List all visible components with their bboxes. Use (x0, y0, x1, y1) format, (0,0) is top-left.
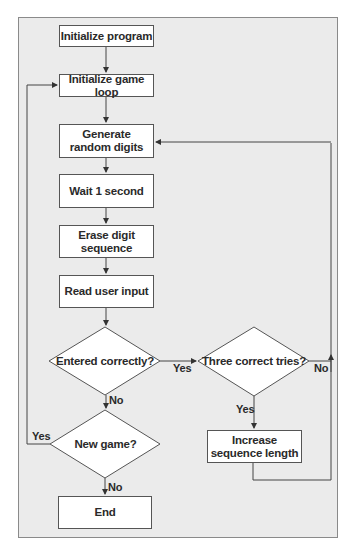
node-label: End (94, 506, 115, 519)
edge-label-yes-right: Yes (173, 362, 191, 374)
node-label: Erase digit sequence (60, 229, 153, 255)
connectors (0, 0, 358, 554)
node-wait-1-second: Wait 1 second (59, 174, 154, 208)
node-generate-random-digits: Generate random digits (59, 124, 154, 158)
node-label-line2: random digits (70, 141, 143, 154)
node-end: End (58, 496, 152, 529)
node-label: Wait 1 second (69, 185, 143, 198)
node-initialize-program: Initialize program (59, 25, 154, 47)
decision-label: New game? (74, 438, 136, 450)
node-label-line1: Increase (232, 434, 277, 447)
edge-label-yes-down: Yes (236, 403, 254, 415)
node-increase-sequence-length: Increase sequence length (207, 430, 302, 463)
node-read-user-input: Read user input (59, 275, 154, 308)
edge-label-no-right: No (314, 362, 328, 374)
node-erase-digit-sequence: Erase digit sequence (59, 225, 154, 258)
edge-label-yes-left: Yes (32, 430, 50, 442)
node-label-line1: Generate (82, 128, 130, 141)
decision-entered-correctly: Entered correctly? (49, 354, 161, 368)
decision-label: Three correct tries? (202, 355, 306, 367)
decision-label: Entered correctly? (56, 355, 154, 367)
edge-label-no-down: No (109, 394, 123, 406)
decision-new-game: New game? (50, 437, 161, 451)
edge-label-no-end: No (108, 481, 122, 493)
node-initialize-game-loop: Initialize game loop (59, 74, 154, 97)
node-label-line2: sequence length (211, 447, 299, 460)
node-label: Initialize game loop (60, 73, 153, 99)
node-label: Read user input (65, 285, 149, 298)
node-label: Initialize program (61, 30, 153, 43)
decision-three-correct-tries: Three correct tries? (198, 354, 310, 368)
